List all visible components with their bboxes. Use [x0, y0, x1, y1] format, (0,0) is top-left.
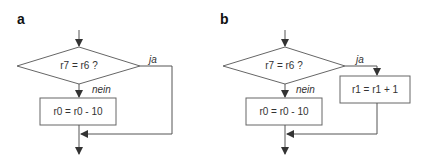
no-label: nein: [92, 84, 111, 95]
yes-arrow: [345, 66, 377, 75]
no-action-text: r0 = r0 - 10: [259, 106, 309, 117]
panel-label-b: b: [220, 11, 229, 27]
decision-text: r7 = r6 ?: [265, 60, 303, 71]
no-action-text: r0 = r0 - 10: [53, 106, 103, 117]
no-label: nein: [296, 84, 315, 95]
flowcharts: a r7 = r6 ? ja nein r0 = r0 - 10 b r7 = …: [0, 0, 431, 164]
flowchart-b: b r7 = r6 ? ja r1 = r1 + 1 nein r0 = r0 …: [220, 11, 410, 154]
yes-label: ja: [354, 54, 364, 65]
yes-action-text: r1 = r1 + 1: [352, 84, 399, 95]
flowchart-a: a r7 = r6 ? ja nein r0 = r0 - 10: [17, 11, 172, 154]
decision-text: r7 = r6 ?: [60, 60, 98, 71]
yes-label: ja: [147, 54, 157, 65]
panel-label-a: a: [17, 11, 25, 27]
